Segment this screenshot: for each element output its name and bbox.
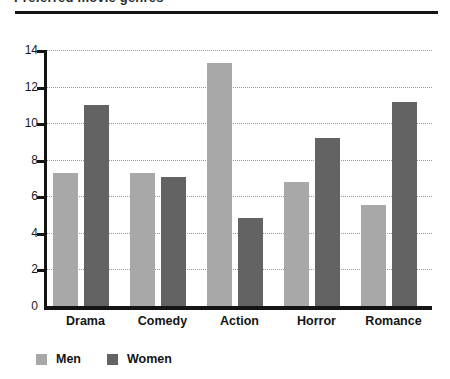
x-axis-label-drama: Drama: [47, 314, 124, 328]
legend-item[interactable]: Women: [107, 352, 172, 366]
legend-label: Women: [127, 352, 172, 366]
y-axis-label: 2: [8, 262, 38, 276]
y-axis-label: 12: [8, 80, 38, 94]
bar-action-men[interactable]: [207, 63, 232, 306]
y-axis-label: 6: [8, 189, 38, 203]
y-axis-label: 4: [8, 226, 38, 240]
chart-legend: MenWomen: [36, 352, 172, 366]
legend-swatch-men: [36, 354, 47, 365]
x-axis-label-comedy: Comedy: [124, 314, 201, 328]
y-axis-label: 10: [8, 116, 38, 130]
bar-group: [355, 50, 432, 306]
y-axis-tick: [37, 160, 45, 163]
x-axis-label-action: Action: [201, 314, 278, 328]
y-axis-tick: [37, 123, 45, 126]
x-axis-label-horror: Horror: [278, 314, 355, 328]
bar-drama-women[interactable]: [84, 105, 109, 306]
legend-label: Men: [56, 352, 81, 366]
y-axis-tick: [37, 196, 45, 199]
bar-chart: 02468101214 DramaComedyActionHorrorRoman…: [0, 30, 450, 335]
legend-item[interactable]: Men: [36, 352, 81, 366]
bar-romance-men[interactable]: [361, 205, 386, 306]
bar-horror-men[interactable]: [284, 182, 309, 306]
x-axis-line: [44, 306, 432, 310]
y-axis-tick: [37, 87, 45, 90]
bar-comedy-men[interactable]: [130, 173, 155, 306]
y-axis-label: 8: [8, 153, 38, 167]
y-axis-tick: [37, 50, 45, 53]
bar-group: [47, 50, 124, 306]
header-rule: [15, 11, 438, 14]
bar-action-women[interactable]: [238, 218, 263, 306]
bar-comedy-women[interactable]: [161, 177, 186, 306]
legend-swatch-women: [107, 354, 118, 365]
bar-horror-women[interactable]: [315, 138, 340, 306]
bar-group: [124, 50, 201, 306]
bar-drama-men[interactable]: [53, 173, 78, 306]
y-axis-tick: [37, 233, 45, 236]
bar-romance-women[interactable]: [392, 102, 417, 306]
bar-group: [201, 50, 278, 306]
y-axis-label: 0: [8, 299, 38, 313]
y-axis-label: 14: [8, 43, 38, 57]
page-title-cutoff: Preferred movie genres: [14, 0, 314, 7]
bar-group: [278, 50, 355, 306]
y-axis-tick: [37, 269, 45, 272]
page-title-text: Preferred movie genres: [14, 0, 164, 5]
x-axis-label-romance: Romance: [355, 314, 432, 328]
